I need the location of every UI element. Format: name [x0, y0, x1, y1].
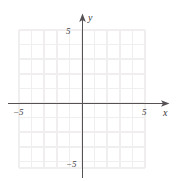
y-axis	[79, 14, 86, 179]
coordinate-plane-figure: 5 −5 −5 5 y x	[0, 0, 176, 181]
x-axis-tick-label-minus-5: −5	[13, 108, 24, 117]
x-axis-tick-label-5: 5	[142, 108, 147, 117]
y-axis-name-label: y	[88, 13, 92, 23]
x-axis-name-label: x	[163, 108, 167, 118]
y-axis-tick-label-5: 5	[66, 27, 71, 36]
coordinate-plane-svg	[0, 0, 176, 181]
y-axis-tick-label-minus-5: −5	[66, 160, 77, 169]
